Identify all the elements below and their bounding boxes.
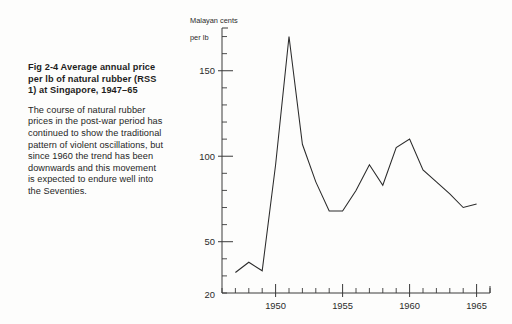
figure-page: Fig 2-4 Average annual price per lb of n… — [0, 0, 512, 324]
x-axis: 1950195519601965 — [222, 284, 490, 311]
y-axis: 5010015020 — [199, 28, 233, 300]
figure-caption: Fig 2-4 Average annual price per lb of n… — [28, 62, 164, 198]
data-series-group — [235, 37, 476, 273]
x-axis-tick-label: 1965 — [466, 300, 487, 311]
y-axis-tick-label: 150 — [199, 65, 215, 76]
figure-caption-body: The course of natural rubber prices in t… — [28, 105, 164, 198]
line-chart-plot: 5010015020 1950195519601965 — [182, 8, 502, 318]
y-axis-min-label: 20 — [205, 289, 215, 300]
x-axis-tick-label: 1950 — [265, 300, 286, 311]
y-axis-tick-label: 100 — [199, 151, 215, 162]
x-axis-tick-label: 1960 — [399, 300, 420, 311]
chart-container: Malayan cents per lb 5010015020 19501955… — [182, 8, 502, 318]
y-axis-tick-label: 50 — [205, 236, 215, 247]
x-axis-tick-label: 1955 — [332, 300, 353, 311]
figure-caption-title: Fig 2-4 Average annual price per lb of n… — [28, 62, 164, 97]
price-line — [235, 37, 476, 273]
